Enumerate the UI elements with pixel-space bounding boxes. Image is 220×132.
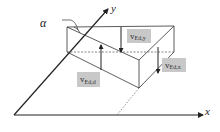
label-ved-y: vEd,y <box>127 29 151 43</box>
angle-alpha-indicator <box>62 20 80 33</box>
projection-line <box>117 88 139 115</box>
label-ved-d-sub: Ed,d <box>85 79 96 85</box>
x-axis-label: x <box>205 106 210 117</box>
label-ved-x: vEd,x <box>162 58 186 72</box>
y-axis-label: y <box>111 3 116 14</box>
label-ved-d: vEd,d <box>77 72 100 87</box>
label-ved-x-sub: Ed,x <box>170 64 181 70</box>
angle-alpha-label: α <box>40 17 46 29</box>
label-ved-y-sub: Ed,y <box>135 35 146 41</box>
wall-shear-diagram <box>0 0 220 132</box>
y-axis <box>14 9 108 115</box>
